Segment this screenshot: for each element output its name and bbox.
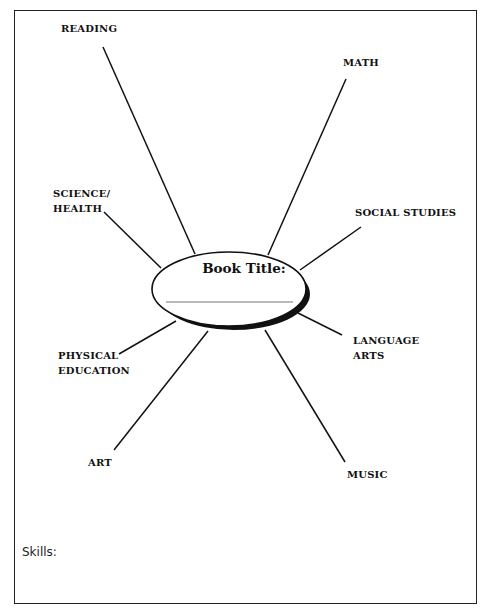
web-diagram: [0, 0, 489, 608]
label-science-line2: HEALTH: [53, 201, 110, 216]
spoke-reading: [103, 47, 195, 254]
label-reading: READING: [61, 21, 117, 36]
label-language-line2: ARTS: [353, 348, 419, 363]
spoke-social-studies: [300, 227, 361, 270]
spoke-music: [265, 330, 345, 462]
label-math: MATH: [343, 55, 379, 70]
label-language-arts: LANGUAGE ARTS: [353, 333, 419, 363]
label-science-health: SCIENCE/ HEALTH: [53, 186, 110, 216]
label-pe-line1: PHYSICAL: [58, 348, 130, 363]
book-title-label: Book Title:: [196, 260, 292, 276]
spoke-language-arts: [298, 313, 342, 335]
label-physical-education: PHYSICAL EDUCATION: [58, 348, 130, 378]
spoke-math: [268, 79, 346, 255]
label-language-line1: LANGUAGE: [353, 333, 419, 348]
skills-label: Skills:: [22, 545, 57, 559]
label-social-studies: SOCIAL STUDIES: [355, 205, 456, 220]
label-art: ART: [88, 455, 112, 470]
label-music: MUSIC: [347, 467, 388, 482]
label-science-line1: SCIENCE/: [53, 186, 110, 201]
spoke-science-health: [104, 212, 161, 268]
label-pe-line2: EDUCATION: [58, 363, 130, 378]
